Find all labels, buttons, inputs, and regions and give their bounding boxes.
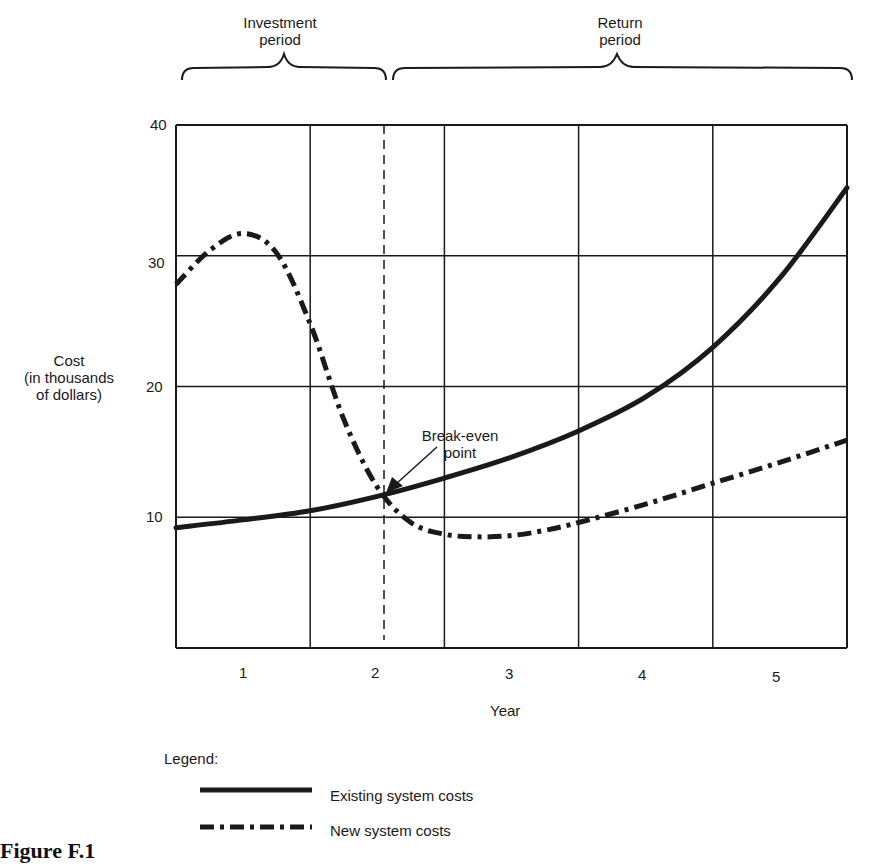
investment-period-label: Investment period	[220, 14, 340, 48]
investment-period-brace	[182, 54, 386, 80]
return-period-label: Return period	[560, 14, 680, 48]
x-tick-2: 2	[371, 664, 379, 681]
y-tick-20: 20	[146, 378, 163, 395]
break-even-line1: Break-even	[400, 427, 520, 444]
x-tick-3: 3	[505, 665, 513, 682]
legend-title: Legend:	[164, 750, 218, 767]
y-axis-label: Cost (in thousands of dollars)	[14, 352, 124, 403]
y-tick-40: 40	[150, 116, 167, 133]
return-label-line1: Return	[560, 14, 680, 31]
existing-system-costs-line	[176, 188, 847, 528]
y-label-line2: (in thousands	[14, 369, 124, 386]
new-system-costs-line	[176, 234, 847, 537]
x-tick-1: 1	[239, 664, 247, 681]
legend-new-label: New system costs	[330, 822, 451, 839]
y-tick-30: 30	[148, 254, 165, 271]
y-label-line3: of dollars)	[14, 386, 124, 403]
investment-label-line2: period	[220, 31, 340, 48]
investment-label-line1: Investment	[220, 14, 340, 31]
x-axis-label: Year	[490, 702, 520, 719]
break-even-line2: point	[400, 444, 520, 461]
break-even-label: Break-even point	[400, 427, 520, 461]
figure-caption: Figure F.1	[0, 838, 95, 864]
return-label-line2: period	[560, 31, 680, 48]
grid-lines	[176, 125, 847, 648]
y-label-line1: Cost	[14, 352, 124, 369]
x-tick-5: 5	[772, 668, 780, 685]
legend-swatches	[200, 790, 312, 827]
x-tick-4: 4	[638, 666, 646, 683]
return-period-brace	[393, 54, 852, 80]
legend-existing-label: Existing system costs	[330, 787, 473, 804]
y-tick-10: 10	[146, 508, 163, 525]
